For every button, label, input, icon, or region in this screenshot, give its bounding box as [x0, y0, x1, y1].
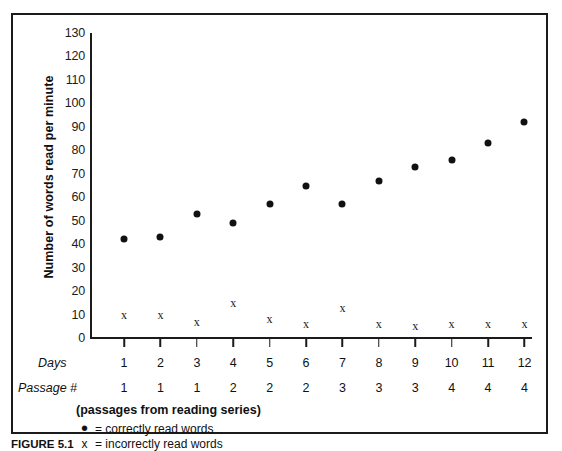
- y-axis-title: Number of words read per minute: [42, 62, 56, 292]
- legend-label-incorrect: = incorrectly read words: [95, 437, 223, 451]
- data-point-cross: x: [157, 309, 163, 321]
- data-point-dot: [375, 177, 382, 184]
- passage-value: 2: [303, 381, 310, 395]
- passage-value: 4: [485, 381, 492, 395]
- data-point-dot: [193, 210, 200, 217]
- y-tick-label: 60: [71, 190, 85, 204]
- data-point-dot: [412, 163, 419, 170]
- data-point-dot: [448, 156, 455, 163]
- passage-value: 1: [193, 381, 200, 395]
- data-point-cross: x: [485, 318, 491, 330]
- passage-row-label: Passage #: [18, 381, 77, 395]
- data-point-cross: x: [521, 318, 527, 330]
- x-tick-mark: [232, 338, 234, 347]
- y-axis-line: [90, 33, 92, 338]
- x-tick-mark: [524, 338, 526, 347]
- x-marker-icon: x: [76, 437, 93, 451]
- days-value: 9: [412, 356, 419, 370]
- days-value: 4: [230, 356, 237, 370]
- passage-value: 4: [521, 381, 528, 395]
- y-tick-label: 50: [71, 214, 85, 228]
- days-value: 6: [303, 356, 310, 370]
- days-value: 3: [193, 356, 200, 370]
- data-point-cross: x: [230, 297, 236, 309]
- figure-frame: Number of words read per minute 13012011…: [11, 13, 548, 434]
- x-tick-mark: [378, 338, 380, 347]
- data-point-dot: [521, 119, 528, 126]
- passage-value: 4: [448, 381, 455, 395]
- x-tick-mark: [487, 338, 489, 347]
- y-tick-label: 30: [71, 261, 85, 275]
- y-tick-label: 100: [65, 96, 85, 110]
- x-tick-mark: [160, 338, 162, 347]
- legend-item-correct: • = correctly read words: [76, 421, 223, 436]
- passage-value: 3: [412, 381, 419, 395]
- data-point-cross: x: [194, 316, 200, 328]
- x-tick-mark: [123, 338, 125, 347]
- y-tick-label: 0: [78, 331, 85, 345]
- x-tick-mark: [305, 338, 307, 347]
- data-point-cross: x: [449, 318, 455, 330]
- days-value: 1: [121, 356, 128, 370]
- x-tick-mark: [414, 338, 416, 347]
- passage-value: 3: [375, 381, 382, 395]
- days-value: 10: [445, 356, 459, 370]
- x-tick-mark: [451, 338, 453, 347]
- data-point-dot: [303, 182, 310, 189]
- legend-item-incorrect: x = incorrectly read words: [76, 436, 223, 451]
- y-tick-label: 10: [71, 308, 85, 322]
- y-tick-label: 70: [71, 167, 85, 181]
- plot-area: 1301201101009080706050403020100 xxxxxxxx…: [90, 20, 534, 345]
- data-point-dot: [157, 234, 164, 241]
- passage-value: 1: [121, 381, 128, 395]
- days-value: 7: [339, 356, 346, 370]
- legend-label-correct: = correctly read words: [95, 422, 213, 436]
- days-value: 12: [518, 356, 532, 370]
- y-tick-label: 80: [71, 143, 85, 157]
- y-tick-label: 130: [65, 26, 85, 40]
- data-point-cross: x: [412, 320, 418, 332]
- data-point-dot: [121, 236, 128, 243]
- x-tick-mark: [342, 338, 344, 347]
- x-axis-line: [90, 337, 532, 339]
- days-row-label: Days: [38, 356, 66, 370]
- y-tick-label: 110: [66, 73, 85, 87]
- data-point-cross: x: [303, 318, 309, 330]
- y-tick-label: 90: [71, 120, 85, 134]
- y-tick-label: 20: [71, 284, 85, 298]
- data-point-cross: x: [376, 318, 382, 330]
- passage-value: 3: [339, 381, 346, 395]
- data-point-dot: [230, 220, 237, 227]
- days-value: 11: [482, 356, 495, 370]
- data-point-dot: [485, 140, 492, 147]
- data-point-cross: x: [267, 313, 273, 325]
- days-value: 2: [157, 356, 164, 370]
- data-point-dot: [266, 201, 273, 208]
- dot-marker-icon: •: [76, 422, 93, 434]
- passage-value: 2: [230, 381, 237, 395]
- days-value: 8: [375, 356, 382, 370]
- passage-value: 2: [266, 381, 273, 395]
- days-value: 5: [266, 356, 273, 370]
- data-point-cross: x: [339, 302, 345, 314]
- figure-caption: FIGURE 5.1: [11, 438, 74, 450]
- x-tick-mark: [196, 338, 198, 347]
- x-tick-mark: [269, 338, 271, 347]
- passage-value: 1: [157, 381, 164, 395]
- passages-note: (passages from reading series): [76, 403, 261, 417]
- y-tick-label: 40: [71, 237, 85, 251]
- y-tick-label: 120: [65, 49, 85, 63]
- data-point-cross: x: [121, 309, 127, 321]
- data-point-dot: [339, 201, 346, 208]
- figure-number: FIGURE 5.1: [11, 438, 74, 450]
- legend: • = correctly read words x = incorrectly…: [76, 421, 223, 451]
